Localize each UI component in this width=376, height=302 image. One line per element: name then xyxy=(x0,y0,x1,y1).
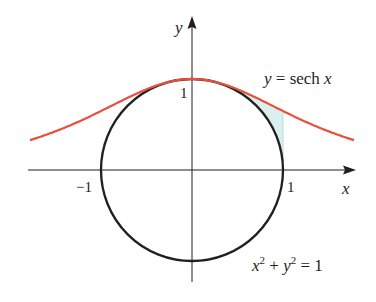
figure: y x −1 1 1 y = sech x x2 + y2 = 1 xyxy=(0,0,376,302)
plot-canvas: y x −1 1 1 y = sech x x2 + y2 = 1 xyxy=(0,0,376,302)
x-axis-label: x xyxy=(341,179,350,198)
y-axis-label: y xyxy=(173,18,183,37)
shaded-region xyxy=(242,91,283,170)
x-tick-neg1: −1 xyxy=(76,179,92,195)
circle-equation-label: x2 + y2 = 1 xyxy=(251,254,323,275)
x-tick-1: 1 xyxy=(287,179,295,195)
y-tick-1: 1 xyxy=(180,85,188,101)
sech-curve-label: y = sech x xyxy=(262,69,332,88)
